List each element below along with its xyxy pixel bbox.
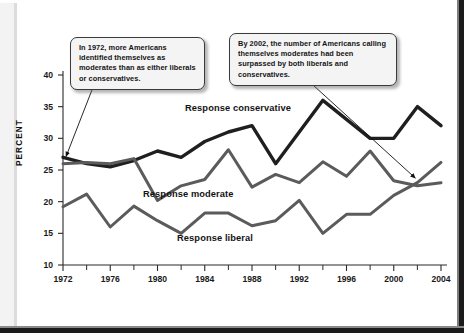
x-tick-label: 2004 <box>421 274 461 284</box>
y-tick-label: 15 <box>31 228 53 238</box>
annotation-callout-1972: In 1972, more Americans identified thems… <box>70 37 205 90</box>
series-line-moderate <box>63 150 441 201</box>
chart-figure: PERCENT 10152025303540 19721976198019841… <box>17 3 457 325</box>
chart-series-lines <box>63 100 441 233</box>
y-tick-label: 20 <box>31 197 53 207</box>
y-tick-label: 30 <box>31 133 53 143</box>
y-tick-label: 25 <box>31 165 53 175</box>
page-left-gutter <box>0 0 14 333</box>
page-frame-bottom <box>0 328 464 333</box>
annotation-callout-2002: By 2002, the number of Americans calling… <box>229 33 397 86</box>
y-axis-title: PERCENT <box>15 119 24 166</box>
x-tick-label: 1996 <box>327 274 367 284</box>
x-tick-label: 1976 <box>90 274 130 284</box>
series-label-moderate: Response moderate <box>143 189 234 199</box>
page-container: PERCENT 10152025303540 19721976198019841… <box>0 0 464 333</box>
x-tick-label: 1992 <box>279 274 319 284</box>
series-label-liberal: Response liberal <box>177 233 253 243</box>
series-line-liberal <box>63 162 441 233</box>
page-frame-top <box>0 0 464 3</box>
y-tick-label: 10 <box>31 260 53 270</box>
x-tick-label: 1984 <box>185 274 225 284</box>
series-label-conservative: Response conservative <box>185 103 291 113</box>
y-tick-label: 40 <box>31 70 53 80</box>
y-tick-label: 35 <box>31 102 53 112</box>
x-tick-label: 1980 <box>138 274 178 284</box>
x-tick-label: 2000 <box>374 274 414 284</box>
x-tick-label: 1988 <box>232 274 272 284</box>
x-tick-label: 1972 <box>43 274 83 284</box>
page-frame-right <box>459 0 464 333</box>
